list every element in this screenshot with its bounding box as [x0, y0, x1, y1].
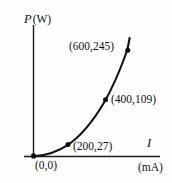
power-current-curve-figure: P(W) I (mA) (0,0) (200,27) (400,109) (60…: [0, 0, 172, 183]
data-point-marker: [125, 48, 130, 53]
data-point-marker: [103, 97, 108, 102]
data-point-marker: [66, 142, 71, 147]
y-axis-label: P(W): [24, 9, 51, 27]
y-axis-unit: (W): [33, 13, 52, 25]
point-label-600-245: (600,245): [69, 40, 114, 52]
point-label-200-27: (200,27): [73, 140, 112, 152]
y-axis-variable: P: [24, 12, 32, 26]
point-label-origin: (0,0): [35, 159, 57, 171]
point-label-400-109: (400,109): [111, 93, 156, 105]
data-point-marker: [31, 153, 36, 158]
plot-canvas: [0, 0, 172, 183]
x-axis-unit: (mA): [138, 161, 163, 173]
x-axis-variable: I: [147, 137, 151, 149]
